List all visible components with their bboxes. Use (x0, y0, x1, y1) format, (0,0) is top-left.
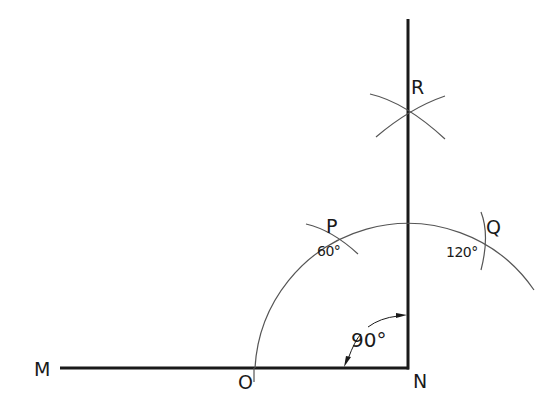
arrowhead-icon (396, 313, 407, 318)
right-angle-arc-upper (368, 316, 398, 327)
angle-label-90: 90° (351, 328, 386, 352)
arc-cut-r-2 (376, 96, 445, 137)
angle-label-120: 120° (446, 244, 478, 260)
construction-diagram: M O N P Q R 60° 120° 90° (0, 0, 550, 416)
angle-label-60: 60° (317, 243, 340, 259)
label-p: P (326, 215, 337, 237)
main-arc (255, 223, 534, 368)
label-n: N (413, 370, 427, 392)
label-m: M (34, 358, 50, 380)
arc-cut-q (481, 212, 486, 270)
label-q: Q (486, 216, 501, 238)
label-r: R (411, 76, 424, 98)
label-o: O (238, 371, 253, 393)
arrowhead-icon (344, 356, 351, 367)
